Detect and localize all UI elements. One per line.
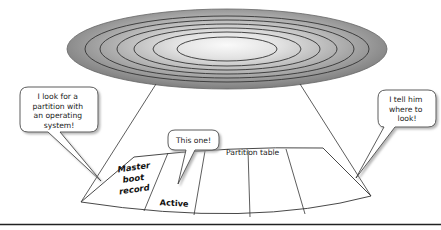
disk-platter [67,9,387,89]
mbr-diagram: Master boot record Active Partition tabl… [0,0,441,230]
speech-bubble-right: I tell him where to look! [356,90,436,178]
partition-table: Master boot record Active Partition tabl… [81,148,371,217]
active-cell-label: Active [160,197,190,209]
speech-bubble-left: I look for a partition with an operating… [20,87,101,181]
partition-table-label: Partition table [226,148,280,157]
center-bubble-text: This one! [175,136,211,145]
